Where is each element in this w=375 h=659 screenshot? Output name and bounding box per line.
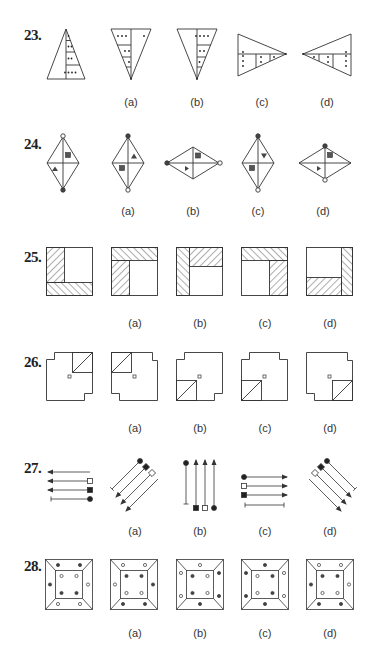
option-label-b[interactable]: (b): [193, 317, 206, 329]
option-label-c[interactable]: (c): [256, 96, 269, 108]
option-figure-d[interactable]: [306, 352, 354, 402]
question-figure: [46, 352, 94, 402]
question-number: 23.: [24, 27, 41, 44]
question-number: 26.: [24, 354, 41, 371]
option-figure-a[interactable]: [110, 133, 146, 193]
option-figure-b[interactable]: [176, 559, 224, 611]
option-label-a[interactable]: (a): [128, 627, 141, 639]
option-figure-b[interactable]: [176, 247, 224, 297]
option-label-b[interactable]: (b): [190, 96, 203, 108]
option-figure-c[interactable]: [241, 352, 289, 402]
option-label-b[interactable]: (b): [193, 525, 206, 537]
option-label-a[interactable]: (a): [128, 317, 141, 329]
option-label-d[interactable]: (d): [323, 525, 336, 537]
question-27: 27.: [0, 430, 375, 545]
question-25: 25. (a): [0, 225, 375, 335]
option-label-c[interactable]: (c): [259, 317, 272, 329]
option-figure-b[interactable]: [176, 28, 218, 80]
question-figure: [45, 28, 87, 80]
option-figure-d[interactable]: [297, 143, 353, 183]
question-23: 23.: [0, 0, 375, 112]
option-figure-d[interactable]: [306, 559, 354, 611]
option-label-c[interactable]: (c): [252, 205, 265, 217]
option-label-c[interactable]: (c): [259, 627, 272, 639]
option-figure-a[interactable]: [111, 247, 159, 297]
option-label-d[interactable]: (d): [323, 317, 336, 329]
option-figure-d[interactable]: [302, 33, 352, 77]
option-figure-b[interactable]: [164, 145, 222, 181]
option-figure-a[interactable]: [111, 352, 159, 402]
option-figure-b[interactable]: [176, 352, 224, 402]
option-figure-b[interactable]: [182, 458, 218, 514]
question-28: 28.: [0, 550, 375, 659]
question-number: 25.: [24, 249, 41, 266]
question-figure: [45, 559, 93, 611]
option-label-a[interactable]: (a): [124, 96, 137, 108]
option-label-d[interactable]: (d): [320, 96, 333, 108]
question-number: 24.: [24, 136, 41, 153]
option-label-a[interactable]: (a): [128, 525, 141, 537]
question-number: 28.: [24, 558, 41, 575]
question-number: 27.: [24, 460, 41, 477]
option-label-b[interactable]: (b): [193, 627, 206, 639]
option-figure-c[interactable]: [237, 33, 287, 77]
option-figure-a[interactable]: [110, 28, 152, 80]
option-label-b[interactable]: (b): [186, 205, 199, 217]
option-figure-d[interactable]: [306, 247, 354, 297]
option-figure-a[interactable]: [108, 458, 163, 516]
option-figure-a[interactable]: [110, 559, 158, 611]
question-figure: [46, 247, 94, 297]
option-figure-c[interactable]: [241, 247, 289, 297]
question-26: 26.: [0, 330, 375, 440]
option-label-c[interactable]: (c): [259, 525, 272, 537]
question-figure: [45, 133, 81, 193]
option-figure-c[interactable]: [241, 559, 289, 611]
option-label-d[interactable]: (d): [323, 627, 336, 639]
option-figure-c[interactable]: [240, 474, 290, 510]
option-label-d[interactable]: (d): [316, 205, 329, 217]
option-figure-d[interactable]: [305, 458, 360, 516]
question-24: 24.: [0, 115, 375, 225]
option-figure-c[interactable]: [240, 133, 276, 193]
option-label-a[interactable]: (a): [121, 205, 134, 217]
question-figure: [46, 468, 96, 508]
